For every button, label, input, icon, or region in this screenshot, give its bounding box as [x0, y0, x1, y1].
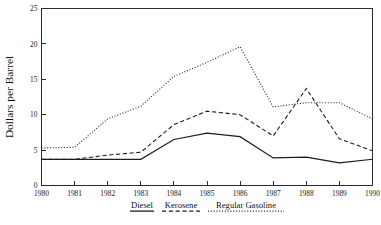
legend-label-diesel: Diesel [131, 200, 154, 210]
x-axis-tick-label: 1980 [34, 189, 49, 198]
y-axis-tick-label: 20 [30, 40, 38, 49]
series-line-diesel [42, 133, 373, 163]
chart-canvas: 0510152025198019811982198319841985198619… [0, 0, 381, 225]
y-axis-tick-label: 25 [30, 4, 38, 13]
legend-label-kerosene: Kerosene [165, 200, 198, 210]
x-axis-tick-label: 1989 [332, 189, 347, 198]
x-axis-tick-label: 1984 [167, 189, 182, 198]
x-axis-tick-label: 1981 [67, 189, 82, 198]
x-axis-tick-label: 1988 [299, 189, 314, 198]
series-line-kerosene [42, 89, 373, 160]
x-axis-tick-label: 1983 [133, 189, 148, 198]
y-axis-tick-label: 10 [30, 110, 38, 119]
x-axis-tick-label: 1990 [365, 189, 380, 198]
x-axis-tick-label: 1987 [266, 189, 281, 198]
y-axis-tick-label: 15 [30, 75, 38, 84]
y-axis-label: Dollars per Barrel [3, 56, 15, 138]
line-chart: 0510152025198019811982198319841985198619… [0, 0, 381, 225]
x-axis-tick-label: 1986 [233, 189, 248, 198]
x-axis-tick-label: 1982 [100, 189, 115, 198]
legend-label-regular-gasoline: Regular Gasoline [216, 200, 276, 210]
x-axis-tick-label: 1985 [200, 189, 215, 198]
y-axis-tick-label: 5 [34, 146, 38, 155]
